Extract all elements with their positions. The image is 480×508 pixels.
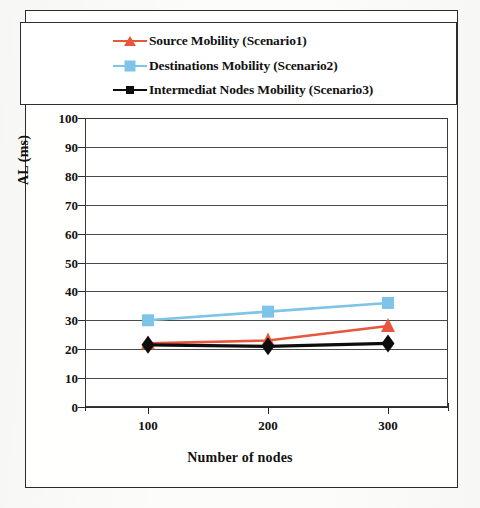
y-axis-tick [78, 291, 85, 292]
chart-legend: Source Mobility (Scenario1) Destinations… [20, 22, 457, 105]
legend-item-destinations-mobility: Destinations Mobility (Scenario2) [21, 53, 456, 78]
x-axis-title: Number of nodes [0, 450, 480, 466]
y-axis-tick-label: 10 [44, 372, 78, 385]
x-axis-tick [268, 407, 269, 414]
y-axis-tick [78, 407, 85, 408]
gridline [85, 263, 448, 264]
y-axis-tick [78, 263, 85, 264]
y-axis-tick [78, 320, 85, 321]
legend-item-intermediate-nodes-mobility: Intermediat Nodes Mobility (Scenario3) [21, 77, 456, 102]
x-axis-endcap [85, 403, 86, 411]
legend-label: Intermediat Nodes Mobility (Scenario3) [149, 83, 373, 97]
plot-area [85, 118, 448, 407]
y-axis-tick-label: 70 [44, 198, 78, 211]
gridline [85, 234, 448, 235]
triangle-marker-icon [113, 34, 147, 48]
x-axis-tick-label: 100 [138, 418, 158, 434]
legend-label: Destinations Mobility (Scenario2) [149, 59, 338, 73]
legend-item-source-mobility: Source Mobility (Scenario1) [21, 28, 456, 53]
x-axis-tick [148, 407, 149, 414]
y-axis-tick-label: 50 [44, 256, 78, 269]
y-axis-tick-label: 60 [44, 227, 78, 240]
diamond-marker-icon [113, 83, 147, 97]
y-axis-tick [78, 349, 85, 350]
gridline [85, 176, 448, 177]
y-axis-tick [78, 205, 85, 206]
y-axis-tick-label: 40 [44, 285, 78, 298]
gridline [85, 205, 448, 206]
gridline [85, 349, 448, 350]
y-axis-tick [78, 176, 85, 177]
y-axis-title: AL (ms) [16, 135, 32, 185]
x-axis-tick [388, 407, 389, 414]
x-axis-line [85, 407, 448, 408]
gridline [85, 291, 448, 292]
y-axis-tick-label: 80 [44, 169, 78, 182]
square-marker-icon [113, 59, 147, 73]
y-axis-tick-label: 20 [44, 343, 78, 356]
y-axis-tick [78, 118, 85, 119]
gridline [85, 320, 448, 321]
y-axis-tick-label: 0 [44, 401, 78, 414]
x-axis-tick-label: 300 [378, 418, 398, 434]
y-axis-tick [78, 378, 85, 379]
y-axis-tick-label: 90 [44, 140, 78, 153]
y-axis-tick-label: 30 [44, 314, 78, 327]
x-axis-tick-label: 200 [258, 418, 278, 434]
y-axis-tick-label: 100 [44, 112, 78, 125]
legend-label: Source Mobility (Scenario1) [149, 34, 307, 48]
x-axis-endcap [448, 403, 449, 411]
y-axis-tick [78, 147, 85, 148]
gridline [85, 147, 448, 148]
y-axis-tick [78, 234, 85, 235]
gridline [85, 378, 448, 379]
y-axis-tick-labels: 1009080706050403020100 [44, 118, 78, 407]
